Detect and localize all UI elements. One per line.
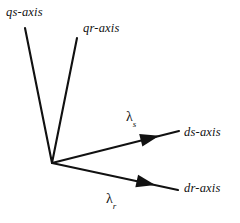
lambda-s-label: λs bbox=[126, 110, 136, 127]
qs-axis-label: qs-axis bbox=[6, 6, 43, 19]
qs-axis-line bbox=[25, 28, 52, 163]
lambda-s-subscript: s bbox=[133, 119, 137, 129]
qr-axis-label: qr-axis bbox=[83, 22, 120, 35]
ds-axis-arrowhead bbox=[139, 134, 159, 147]
qr-axis-line bbox=[52, 38, 77, 163]
axis-diagram: qs-axis qr-axis ds-axis dr-axis λs λr bbox=[0, 0, 240, 223]
ds-axis-label: ds-axis bbox=[184, 126, 221, 139]
lambda-s-symbol: λ bbox=[126, 109, 133, 124]
lambda-r-label: λr bbox=[106, 192, 116, 209]
dr-axis-label: dr-axis bbox=[184, 182, 221, 195]
lambda-r-symbol: λ bbox=[106, 191, 113, 206]
lambda-r-subscript: r bbox=[113, 201, 117, 211]
ds-axis-line bbox=[52, 131, 179, 163]
dr-axis-line bbox=[52, 163, 178, 190]
